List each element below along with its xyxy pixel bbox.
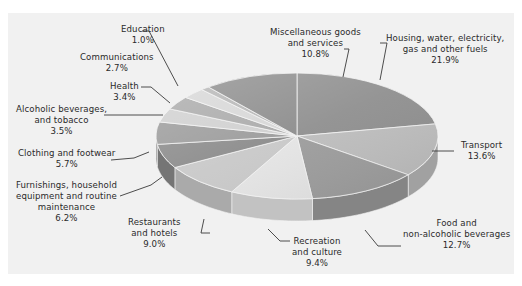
- label-transport-line1: Transport: [461, 140, 502, 151]
- label-alcohol-pct: 3.5%: [16, 126, 107, 137]
- label-recreation-line1: Recreation: [292, 236, 342, 247]
- label-recreation-pct: 9.4%: [292, 258, 342, 269]
- leader-line-4: [268, 229, 290, 241]
- label-misc-line1: Miscellaneous goods: [270, 27, 361, 38]
- label-clothing: Clothing and footwear 5.7%: [18, 148, 116, 170]
- label-furnishings-line1: Furnishings, household: [16, 180, 117, 191]
- label-food-pct: 12.7%: [403, 240, 510, 251]
- leader-line-9: [141, 87, 170, 103]
- label-furnishings: Furnishings, household equipment and rou…: [16, 180, 117, 224]
- label-communications-pct: 2.7%: [80, 63, 154, 74]
- label-recreation: Recreation and culture 9.4%: [292, 236, 342, 269]
- pie-slices: [156, 73, 438, 199]
- label-restaurants-pct: 9.0%: [128, 239, 181, 250]
- label-restaurants: Restaurants and hotels 9.0%: [128, 217, 181, 250]
- label-food-line1: Food and: [403, 218, 510, 229]
- label-transport: Transport 13.6%: [461, 140, 502, 162]
- label-communications-line1: Communications: [80, 52, 154, 63]
- label-housing-line2: gas and other fuels: [386, 44, 504, 55]
- label-education: Education 1.0%: [121, 24, 165, 46]
- label-health: Health 3.4%: [110, 81, 139, 103]
- label-education-line1: Education: [121, 24, 165, 35]
- pie-gloss: [156, 73, 438, 199]
- label-restaurants-line2: and hotels: [128, 228, 181, 239]
- label-alcohol-line2: and tobacco: [16, 115, 107, 126]
- label-misc: Miscellaneous goods and services 10.8%: [270, 27, 361, 60]
- label-housing-line1: Housing, water, electricity,: [386, 33, 504, 44]
- label-education-pct: 1.0%: [121, 35, 165, 46]
- label-alcohol: Alcoholic beverages, and tobacco 3.5%: [16, 104, 107, 137]
- label-housing: Housing, water, electricity, gas and oth…: [386, 33, 504, 66]
- label-housing-pct: 21.9%: [386, 55, 504, 66]
- label-furnishings-line2: equipment and routine: [16, 191, 117, 202]
- leader-line-3: [365, 230, 401, 246]
- label-transport-pct: 13.6%: [461, 151, 502, 162]
- label-misc-line2: and services: [270, 38, 361, 49]
- label-health-line1: Health: [110, 81, 139, 92]
- leader-line-5: [201, 219, 210, 233]
- leader-line-6: [120, 177, 162, 196]
- label-food-line2: non-alcoholic beverages: [403, 229, 510, 240]
- label-alcohol-line1: Alcoholic beverages,: [16, 104, 107, 115]
- label-furnishings-pct: 6.2%: [16, 213, 117, 224]
- label-clothing-line1: Clothing and footwear: [18, 148, 116, 159]
- label-health-pct: 3.4%: [110, 92, 139, 103]
- label-clothing-pct: 5.7%: [18, 159, 116, 170]
- label-furnishings-line3: maintenance: [16, 202, 117, 213]
- label-communications: Communications 2.7%: [80, 52, 154, 74]
- label-recreation-line2: and culture: [292, 247, 342, 258]
- label-restaurants-line1: Restaurants: [128, 217, 181, 228]
- label-misc-pct: 10.8%: [270, 49, 361, 60]
- leader-line-7: [111, 152, 149, 160]
- label-food: Food and non-alcoholic beverages 12.7%: [403, 218, 510, 251]
